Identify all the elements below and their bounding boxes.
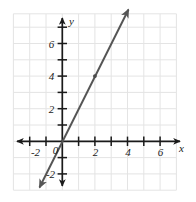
plotted-line-y-equals-2x [40, 10, 129, 188]
x-axis-label: x [178, 142, 184, 154]
coordinate-plane-svg: -2 2 4 6 6 4 2 -2 0 x y [0, 0, 196, 202]
origin-label: 0 [53, 144, 59, 156]
grid-lines [13, 14, 176, 190]
graph-figure: -2 2 4 6 6 4 2 -2 0 x y [0, 0, 196, 202]
y-tick-label-4: 4 [49, 70, 55, 82]
y-axis-label: y [68, 15, 74, 27]
y-tick-label-6: 6 [49, 38, 55, 50]
point-marker-2-4 [93, 74, 97, 78]
x-tick-label-4: 4 [125, 146, 131, 158]
y-tick-label-neg2: -2 [46, 168, 56, 180]
y-tick-label-2: 2 [49, 103, 55, 115]
x-tick-label-2: 2 [93, 146, 99, 158]
x-tick-label-neg2: -2 [31, 146, 41, 158]
x-tick-label-6: 6 [158, 146, 164, 158]
